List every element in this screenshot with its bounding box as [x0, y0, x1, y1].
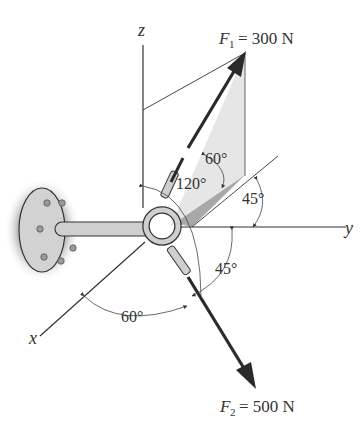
- angle-label-60-bottom: 60°: [121, 308, 143, 325]
- z-axis-label: z: [137, 20, 145, 40]
- f2-subscript: 2: [230, 406, 236, 418]
- x-axis-label: x: [28, 328, 37, 348]
- angle-label-45-bottom: 45°: [215, 260, 237, 277]
- support-rod: [55, 222, 148, 236]
- f1-label: F 1 = 300 N: [218, 29, 294, 50]
- angle-label-45-top: 45°: [242, 190, 264, 207]
- f2-bracket: [166, 245, 191, 276]
- wall-support: [4, 178, 148, 282]
- f1-value: = 300 N: [238, 29, 294, 48]
- f2-label: F 2 = 500 N: [219, 397, 295, 418]
- f2-value: = 500 N: [239, 397, 295, 416]
- angle-label-120: 120°: [176, 175, 206, 192]
- force-diagram: z y x F 1 = 300 N F 2 = 500 N 60° 120° 4…: [0, 0, 361, 436]
- angle-label-60-top: 60°: [205, 150, 227, 167]
- f2-shaft: [188, 277, 245, 370]
- f2-arrowhead: [236, 362, 256, 389]
- f1-subscript: 1: [229, 38, 235, 50]
- y-axis-label: y: [343, 218, 353, 238]
